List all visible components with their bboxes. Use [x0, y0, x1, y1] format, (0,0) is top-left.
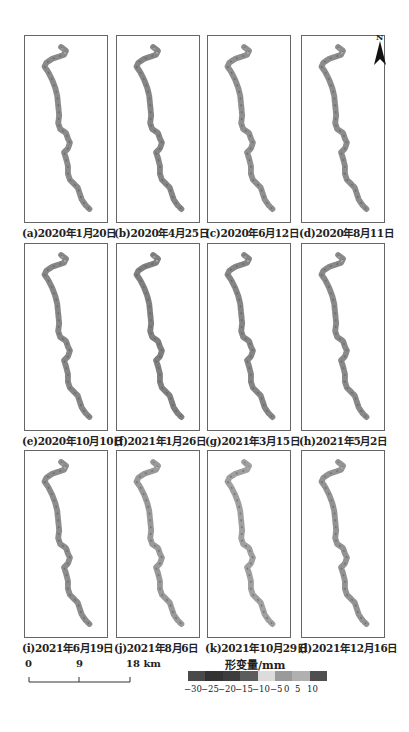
legend-swatch: [310, 671, 327, 681]
deformation-map: [302, 244, 384, 430]
legend-tick-label: 0: [284, 684, 289, 694]
panel-caption: (h)2021年5月2日: [299, 433, 399, 448]
legend-swatch: [275, 671, 292, 681]
map-panel: [207, 450, 291, 638]
legend-color-bar: [188, 671, 327, 681]
map-panel: [24, 35, 108, 223]
deformation-map: [117, 244, 199, 430]
legend-tick-label: −30: [184, 684, 202, 694]
panel-caption: (d)2020年8月11日: [299, 225, 399, 240]
panel-caption: (e)2020年10月10日: [22, 433, 122, 448]
scale-tick-9: 9: [76, 658, 83, 669]
panel-caption: (f)2021年1月26日: [114, 433, 214, 448]
map-panel: [301, 450, 385, 638]
panel-caption: (j)2021年8月6日: [114, 640, 214, 655]
panel-caption: (i)2021年6月19日: [22, 640, 122, 655]
deformation-map: [302, 36, 384, 222]
panel-caption: (a)2020年1月20日: [22, 225, 122, 240]
panel-caption: (k)2021年10月29日: [205, 640, 305, 655]
deformation-map: [302, 451, 384, 637]
deformation-map: [117, 36, 199, 222]
panel-caption: (l)2021年12月16日: [299, 640, 399, 655]
legend-tick-label: 5: [295, 684, 300, 694]
panel-caption: (b)2020年4月25日: [114, 225, 214, 240]
legend-swatch: [188, 671, 205, 681]
map-panel: [301, 243, 385, 431]
deformation-map: [25, 36, 107, 222]
scale-tick-18km: 18 km: [126, 658, 161, 669]
map-panel: [24, 243, 108, 431]
legend-swatch: [258, 671, 275, 681]
map-panel: [116, 243, 200, 431]
legend-tick-label: −10: [252, 684, 270, 694]
deformation-map: [208, 244, 290, 430]
scale-tick-0: 0: [25, 658, 32, 669]
legend-tick-label: −25: [201, 684, 219, 694]
map-panel: [24, 450, 108, 638]
legend-swatch: [292, 671, 309, 681]
legend-tick-label: −5: [270, 684, 283, 694]
map-panel: [207, 35, 291, 223]
deformation-map: [117, 451, 199, 637]
legend-swatch: [205, 671, 222, 681]
legend-title: 形变量/mm: [225, 656, 285, 672]
deformation-map: [25, 244, 107, 430]
map-panel: [116, 450, 200, 638]
deformation-map: [208, 36, 290, 222]
deformation-map: [208, 451, 290, 637]
legend-tick-label: −15: [235, 684, 253, 694]
legend-swatch: [223, 671, 240, 681]
map-panel: [207, 243, 291, 431]
map-panel: [116, 35, 200, 223]
north-arrow-icon: [373, 37, 387, 67]
legend-tick-label: 10: [307, 684, 318, 694]
legend-tick-label: −20: [218, 684, 236, 694]
panel-caption: (c)2020年6月12日: [205, 225, 305, 240]
deformation-map: [25, 451, 107, 637]
panel-caption: (g)2021年3月15日: [205, 433, 305, 448]
legend-swatch: [240, 671, 257, 681]
